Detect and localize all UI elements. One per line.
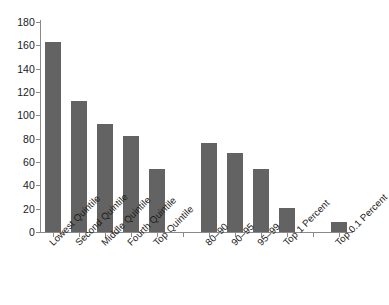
x-axis-category-label: Top 1 Percent — [281, 197, 332, 248]
x-axis-category-label: Top 0.1 Percent — [333, 191, 389, 247]
x-axis-category-label: 90–95 — [229, 221, 256, 248]
x-axis-category-label: 80–90 — [203, 221, 230, 248]
x-axis-category-label: 95–99 — [255, 221, 282, 248]
